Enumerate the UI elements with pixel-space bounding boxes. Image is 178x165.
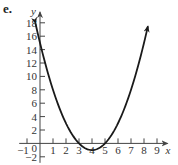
x-axis-label: x (165, 144, 171, 156)
y-tick-label: 4 (32, 111, 38, 123)
y-tick-label: 16 (26, 30, 38, 42)
y-tick-label: 10 (26, 70, 38, 82)
x-tick-label: 1 (50, 144, 56, 156)
y-tick-label: 8 (32, 84, 38, 96)
x-tick-label: 6 (115, 144, 121, 156)
x-tick-label: 7 (128, 144, 134, 156)
y-axis-label: y (30, 5, 36, 17)
parabola-series (35, 23, 147, 150)
origin-label: 0 (32, 142, 38, 154)
y-tick-label: 14 (26, 44, 38, 56)
x-tick-label: 2 (63, 144, 69, 156)
x-tick-label: 8 (141, 144, 147, 156)
y-tick-label: 12 (26, 57, 37, 69)
chart: −1123456789−2246810121416180xy (0, 0, 178, 165)
y-tick-label: 6 (32, 97, 38, 109)
y-tick-label: 2 (32, 124, 38, 136)
x-tick-label: 9 (154, 144, 160, 156)
